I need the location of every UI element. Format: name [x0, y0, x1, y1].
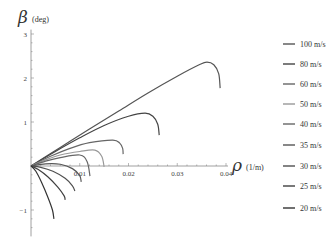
y-ticks: −1123: [20, 31, 28, 215]
speed-curves-chart: 0.010.020.030.04 −1123 β (deg) ρ (1/m) 1…: [0, 0, 332, 244]
y-axis-symbol: β: [17, 7, 28, 27]
legend-label: 35 m/s: [300, 141, 322, 150]
x-tick-label: 0.03: [171, 170, 184, 178]
y-tick-label: 2: [24, 75, 28, 83]
legend-label: 60 m/s: [300, 80, 322, 89]
series-line-100m-s: [31, 62, 220, 166]
minor-ticks: [31, 34, 226, 228]
x-ticks: 0.010.020.030.04: [74, 170, 233, 178]
legend: 100 m/s80 m/s60 m/s50 m/s40 m/s35 m/s30 …: [283, 40, 326, 213]
legend-label: 80 m/s: [300, 60, 322, 69]
y-tick-label: 1: [24, 119, 28, 127]
legend-label: 20 m/s: [300, 204, 322, 213]
x-tick-label: 0.04: [220, 170, 233, 178]
legend-label: 100 m/s: [300, 40, 326, 49]
legend-label: 40 m/s: [300, 120, 322, 129]
legend-label: 50 m/s: [300, 100, 322, 109]
y-tick-label: 3: [24, 31, 28, 39]
legend-label: 25 m/s: [300, 182, 322, 191]
y-tick-label: −1: [20, 207, 28, 215]
x-tick-label: 0.02: [122, 170, 135, 178]
y-axis-unit: (deg): [32, 15, 49, 24]
x-axis-unit: (1/m): [246, 163, 264, 172]
x-axis-symbol: ρ: [231, 155, 242, 175]
series-line-60m-s: [31, 140, 123, 166]
series-group: [31, 62, 220, 219]
legend-label: 30 m/s: [300, 162, 322, 171]
axis-labels: β (deg) ρ (1/m): [17, 7, 264, 175]
series-line-20m-s: [31, 166, 54, 219]
